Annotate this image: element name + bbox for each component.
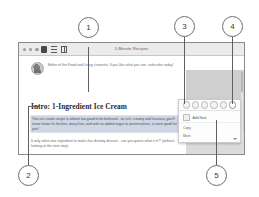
callout-1-leader [88,47,89,92]
callout-4: 4 [222,16,243,37]
highlight-blue-icon[interactable] [201,101,208,108]
menu-item-add-note[interactable]: Add Note [179,113,240,123]
selection-context-menu: Add Note Copy More [178,99,241,143]
callout-1: 1 [78,17,99,38]
window-title: 5-Minute Recipes [19,46,244,51]
context-menu-items: Add Note Copy More [179,111,240,142]
selected-paragraph[interactable]: This ice cream recipe is almost too good… [31,116,185,132]
callout-3: 3 [174,16,195,37]
avatar [31,62,44,75]
menu-item-copy[interactable]: Copy [179,124,240,132]
callout-1-label: 1 [86,23,90,32]
page-title: Intro: 1-Ingredient Ice Cream [31,102,127,111]
byline-text: Editor of the Food and Living channels. … [48,62,174,68]
callout-2: 2 [18,165,39,186]
more-caret-icon[interactable] [233,138,237,140]
menu-item-copy-label: Copy [183,126,191,130]
callout-2-label: 2 [26,171,30,180]
figure-canvas: 5-Minute Recipes Editor of the Food and … [0,0,259,197]
menu-item-add-note-label: Add Note [193,116,207,120]
highlight-pink-icon[interactable] [210,101,217,108]
callout-4-label: 4 [230,22,234,31]
callout-5: 5 [206,165,227,186]
callout-2-leader-v [28,106,29,165]
app-window: 5-Minute Recipes Editor of the Food and … [18,42,245,155]
scrollbar-thumb[interactable] [241,72,243,92]
callout-3-label: 3 [182,22,186,31]
underline-icon[interactable] [220,101,227,108]
author-byline: Editor of the Food and Living channels. … [31,62,181,77]
menu-item-more[interactable]: More [179,132,240,140]
highlight-color-row [179,100,240,111]
callout-2-leader-h [28,106,40,107]
callout-4-leader [232,36,233,104]
callout-3-leader [184,36,185,104]
callout-5-label: 5 [214,171,218,180]
menu-item-more-label: More [183,134,191,138]
window-titlebar: 5-Minute Recipes [19,43,244,56]
note-icon [183,114,190,121]
highlight-green-icon[interactable] [192,101,199,108]
paragraph-2: It only takes one ingredient to make thi… [31,139,183,149]
callout-5-leader [216,120,217,165]
